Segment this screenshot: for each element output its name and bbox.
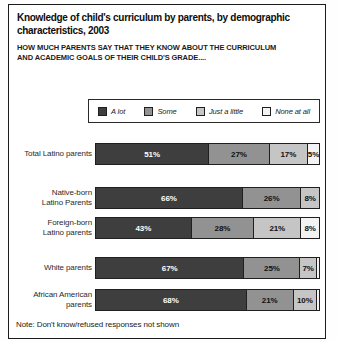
bar-segment: 21% <box>254 218 301 238</box>
bar-segment <box>317 258 319 278</box>
segment-value-label: 10% <box>297 296 313 305</box>
bar-segment: 68% <box>96 290 247 310</box>
category-label: Foreign-bornLatino parents <box>9 217 92 239</box>
stacked-bar: 51%27%17%5% <box>95 143 320 165</box>
bar-segment: 5% <box>308 144 319 164</box>
bar-segment: 27% <box>209 144 269 164</box>
bar-segment: 17% <box>270 144 308 164</box>
segment-value-label: 21% <box>269 224 285 233</box>
chart-row: African Americanparents68%21%10% <box>9 289 321 311</box>
segment-value-label: 68% <box>163 296 179 305</box>
bar-segment: 8% <box>301 188 319 208</box>
figure: Knowledge of child's curriculum by paren… <box>0 0 338 342</box>
bar-segment: 7% <box>300 258 316 278</box>
stacked-bar: 68%21%10% <box>95 289 320 311</box>
bar-segment: 66% <box>96 188 243 208</box>
bar-segment: 10% <box>294 290 317 310</box>
segment-value-label: 67% <box>162 264 178 273</box>
segment-value-label: 17% <box>280 150 296 159</box>
category-label: Total Latino parents <box>9 143 92 165</box>
chart-row: Foreign-bornLatino parents43%28%21%8% <box>9 217 321 239</box>
segment-value-label: 8% <box>305 224 316 233</box>
segment-value-label: 7% <box>302 264 313 273</box>
chart-row: Native-bornLatino Parents66%26%8% <box>9 187 321 209</box>
bar-segment <box>317 290 319 310</box>
bar-segment: 67% <box>96 258 244 278</box>
stacked-bar: 67%25%7% <box>95 257 320 279</box>
segment-value-label: 28% <box>215 224 231 233</box>
bar-segment: 28% <box>192 218 255 238</box>
category-label: White parents <box>9 257 92 279</box>
stacked-bar-chart: Total Latino parents51%27%17%5%Native-bo… <box>0 0 338 342</box>
bar-segment: 51% <box>96 144 209 164</box>
bar-segment: 26% <box>243 188 301 208</box>
chart-row: Total Latino parents51%27%17%5% <box>9 143 321 165</box>
chart-row: White parents67%25%7% <box>9 257 321 279</box>
bar-segment: 43% <box>96 218 192 238</box>
footnote: Note: Don't know/refused responses not s… <box>16 320 179 329</box>
stacked-bar: 66%26%8% <box>95 187 320 209</box>
segment-value-label: 27% <box>231 150 247 159</box>
segment-value-label: 66% <box>161 194 177 203</box>
segment-value-label: 8% <box>304 194 315 203</box>
bar-segment: 25% <box>244 258 300 278</box>
category-label: African Americanparents <box>9 289 92 311</box>
bar-segment: 8% <box>301 218 319 238</box>
segment-value-label: 25% <box>264 264 280 273</box>
segment-value-label: 21% <box>262 296 278 305</box>
segment-value-label: 51% <box>144 150 160 159</box>
segment-value-label: 26% <box>264 194 280 203</box>
bar-segment: 21% <box>247 290 294 310</box>
segment-value-label: 5% <box>308 150 319 159</box>
segment-value-label: 43% <box>135 224 151 233</box>
stacked-bar: 43%28%21%8% <box>95 217 320 239</box>
category-label: Native-bornLatino Parents <box>9 187 92 209</box>
